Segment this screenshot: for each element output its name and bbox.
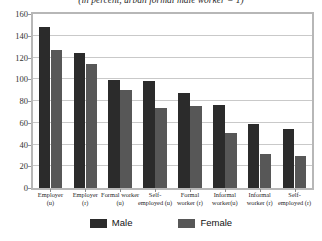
bar-male <box>283 129 295 188</box>
y-axis-tick-mark <box>28 14 31 15</box>
y-axis-tick-label: 160 <box>2 10 28 18</box>
y-axis-tick-mark <box>28 79 31 80</box>
x-axis-tick-mark <box>190 189 191 192</box>
legend-label: Female <box>200 218 232 228</box>
y-axis-tick-label: 20 <box>2 162 28 170</box>
y-axis-tick-label: 60 <box>2 119 28 127</box>
x-axis-tick-mark <box>50 189 51 192</box>
bar-male <box>143 81 155 188</box>
bars-layer <box>33 14 312 188</box>
bar-female <box>225 133 237 188</box>
y-axis-tick-mark <box>28 188 31 189</box>
bar-male <box>108 80 120 188</box>
y-axis-tick-mark <box>28 36 31 37</box>
y-axis-tick-label: 80 <box>2 97 28 105</box>
y-axis-tick-mark <box>28 123 31 124</box>
bar-female <box>260 154 272 188</box>
y-axis-tick-mark <box>28 58 31 59</box>
x-axis-tick-mark <box>225 189 226 192</box>
bar-female <box>190 106 202 188</box>
legend-swatch-icon <box>90 219 107 228</box>
y-axis-tick-label: 120 <box>2 54 28 62</box>
bar-female <box>120 90 132 188</box>
x-axis-tick-label: Self-employed (r) <box>274 191 315 206</box>
bar-chart: (in percent, urban formal male worker = … <box>0 0 322 241</box>
legend-swatch-icon <box>178 219 195 228</box>
x-axis-tick-mark <box>295 189 296 192</box>
bar-female <box>295 156 307 188</box>
bar-male <box>213 105 225 188</box>
bar-male <box>248 124 260 188</box>
legend-item-female[interactable]: Female <box>178 218 232 228</box>
x-axis-tick-mark <box>260 189 261 192</box>
y-axis-tick-label: 140 <box>2 32 28 40</box>
x-axis-tick-mark <box>120 189 121 192</box>
y-axis-tick-mark <box>28 166 31 167</box>
y-axis-tick-mark <box>28 145 31 146</box>
x-axis-tick-mark <box>85 189 86 192</box>
chart-title: (in percent, urban formal male worker = … <box>0 0 322 6</box>
y-axis-tick-mark <box>28 101 31 102</box>
x-axis: Employer(u)Employer(r)Formal worker(u)Se… <box>31 191 314 213</box>
y-axis-tick-label: 40 <box>2 141 28 149</box>
bar-female <box>86 64 98 188</box>
bar-male <box>74 53 86 188</box>
bar-male <box>39 27 51 188</box>
bar-female <box>155 108 167 188</box>
legend-item-male[interactable]: Male <box>90 218 133 228</box>
bar-female <box>51 50 63 188</box>
legend-label: Male <box>112 218 133 228</box>
x-axis-tick-mark <box>155 189 156 192</box>
chart-legend: MaleFemale <box>0 218 322 228</box>
y-axis-tick-label: 0 <box>2 184 28 192</box>
y-axis-tick-label: 100 <box>2 75 28 83</box>
bar-male <box>178 93 190 188</box>
